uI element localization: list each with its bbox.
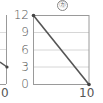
plot-area — [30, 10, 95, 90]
left-chart-x-label: 0 — [1, 87, 9, 99]
y-tick-3: 3 — [13, 61, 29, 73]
data-point — [5, 65, 8, 68]
x-tick-10: 10 — [79, 87, 94, 99]
left-chart-plot — [0, 0, 12, 90]
y-tick-0: 0 — [13, 78, 29, 90]
y-tick-9: 9 — [13, 26, 29, 38]
y-tick-12: 12 — [13, 9, 29, 21]
y-tick-6: 6 — [13, 44, 29, 56]
data-point-start — [32, 14, 36, 18]
